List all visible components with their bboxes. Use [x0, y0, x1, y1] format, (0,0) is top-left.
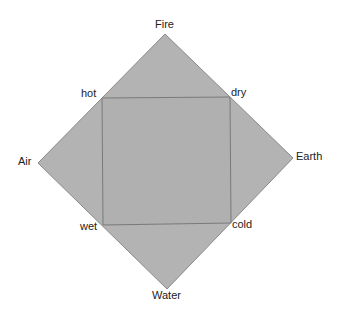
- label-dry: dry: [231, 86, 246, 98]
- label-earth: Earth: [296, 150, 322, 162]
- inner-square: [102, 97, 231, 225]
- elements-diagram: [0, 0, 339, 312]
- label-air: Air: [18, 155, 31, 167]
- label-cold: cold: [232, 218, 252, 230]
- label-wet: wet: [80, 220, 97, 232]
- label-water: Water: [152, 289, 181, 301]
- label-fire: Fire: [155, 18, 174, 30]
- label-hot: hot: [81, 87, 96, 99]
